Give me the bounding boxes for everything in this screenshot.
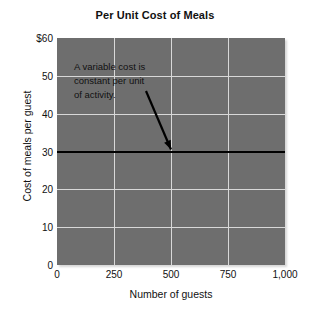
chart-title: Per Unit Cost of Meals xyxy=(0,9,310,21)
plot-area: A variable cost isconstant per unitof ac… xyxy=(57,38,285,265)
x-axis-tick-label: 1,000 xyxy=(272,269,297,280)
x-axis-tick-labels: 02505007501,000 xyxy=(57,269,285,283)
x-axis-title: Number of guests xyxy=(57,288,285,300)
x-axis-tick-label: 0 xyxy=(54,269,60,280)
y-axis-tick-label: 0 xyxy=(1,260,53,271)
annotation-line: of activity. xyxy=(74,88,204,102)
x-axis-tick-label: 500 xyxy=(163,269,180,280)
annotation-line: A variable cost is xyxy=(74,60,204,74)
y-axis-title: Cost of meals per guest xyxy=(21,56,33,236)
x-axis-tick-label: 750 xyxy=(220,269,237,280)
x-axis-tick-label: 250 xyxy=(106,269,123,280)
chart-annotation: A variable cost isconstant per unitof ac… xyxy=(74,60,204,102)
annotation-line: constant per unit xyxy=(74,74,204,88)
chart-container: Per Unit Cost of Meals A variable cost i… xyxy=(0,0,310,312)
y-axis-tick-label: $60 xyxy=(1,33,53,44)
annotation-arrow-icon xyxy=(145,90,181,152)
